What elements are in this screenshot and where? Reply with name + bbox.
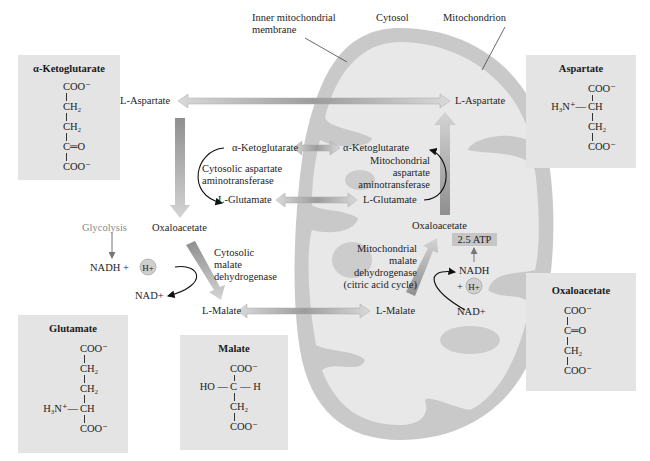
cyto-l-malate: L-Malate [202,305,241,317]
chem-row: CH₂ [80,363,98,375]
matrix-aat-label-3: aminotransferase [330,179,430,191]
chem-row: COO⁻ [230,421,258,433]
structure-box-aspartate: Aspartate COO⁻ H₃N⁺— CH CH₂ COO⁻ [526,55,636,168]
chem-row: C═O [63,141,85,153]
matrix-hplus: H+ [466,281,482,293]
matrix-l-glutamate: L-Glutamate [363,194,417,206]
chem-substituent-left: HO — [180,381,228,393]
glycolysis-label: Glycolysis [82,222,127,234]
cyto-mdh-label-3: dehydrogenase [214,271,277,283]
structure-box-oxaloacetate: Oxaloacetate COO⁻ C═O CH₂ COO⁻ [526,273,636,391]
bond [567,337,568,345]
chem-row: CH [588,101,603,113]
structure-box-glutamate: Glutamate COO⁻ CH₂ CH₂ H₃N⁺— CH COO⁻ [18,315,128,453]
cyto-l-glutamate: L-Glutamate [218,194,272,206]
chem-row: COO⁻ [80,423,108,435]
chem-substituent: H₃N⁺— [526,101,586,113]
matrix-nadh: NADH [459,265,489,277]
cyto-alpha-ketoglutarate: α-Ketoglutarate [232,142,298,154]
cyto-aat-label-2: aminotransferase [202,175,274,187]
cyto-mdh-curve [168,267,197,296]
matrix-mdh-label-1: Mitochondrial [320,243,417,255]
mitochondrion-label: Mitochondrion [443,12,506,24]
chem-row: COO⁻ [588,141,616,153]
matrix-mdh-label-2: malate [320,255,417,267]
cyto-hplus: H+ [140,262,156,274]
chem-row: C [230,381,237,393]
inner-membrane-label: Inner mitochondrial [252,12,336,24]
chem-row: CH₂ [230,401,248,413]
matrix-mdh-label-4: (citric acid cycle) [310,279,417,291]
matrix-aat-label-2: aspartate [340,167,430,179]
cyto-nadh: NADH + [90,262,129,274]
bond [567,317,568,325]
bond [66,153,67,161]
chem-row: COO⁻ [230,363,258,375]
chem-row: CH₂ [564,345,582,357]
bond [234,413,235,421]
chem-row: COO⁻ [564,365,592,377]
structure-title: Aspartate [526,63,636,74]
bond [592,113,593,121]
chem-row: COO⁻ [564,305,592,317]
bond [84,375,85,383]
chem-row: C═O [564,325,586,337]
bond [66,93,67,101]
cytosol-label: Cytosol [376,12,409,24]
bond [84,395,85,403]
cyto-nad-plus: NAD+ [135,290,164,302]
matrix-nad-plus: NAD+ [457,306,486,318]
matrix-plus: + [457,281,463,293]
chem-row: COO⁻ [63,81,91,93]
chem-row: CH₂ [588,121,606,133]
bond [234,393,235,401]
bond [567,357,568,365]
chem-row: CH₂ [80,383,98,395]
matrix-aat-label-1: Mitochondrial [340,155,430,167]
cyto-mdh-label-2: malate [214,259,242,271]
matrix-mdh-label-3: dehydrogenase [320,267,417,279]
chem-substituent-right: — H [240,381,261,393]
matrix-l-aspartate: L-Aspartate [455,95,505,107]
bond [66,113,67,121]
structure-box-malate: Malate COO⁻ HO — C — H CH₂ COO⁻ [180,335,288,450]
cyto-oxaloacetate: Oxaloacetate [152,222,207,234]
matrix-oxaloacetate: Oxaloacetate [412,220,467,232]
matrix-alpha-ketoglutarate: α-Ketoglutarate [343,142,409,154]
structure-title: α-Ketoglutarate [18,63,120,74]
chem-row: CH₂ [63,101,81,113]
bond [84,415,85,423]
structure-box-alpha-ketoglutarate: α-Ketoglutarate COO⁻ CH₂ CH₂ C═O COO⁻ [18,55,120,180]
bond [84,355,85,363]
structure-title: Glutamate [18,323,128,334]
chem-row: CH [80,403,95,415]
cyto-l-aspartate: L-Aspartate [120,95,170,107]
cyto-aat-label-1: Cytosolic aspartate [202,163,282,175]
structure-title: Oxaloacetate [526,285,636,296]
matrix-l-malate: L-Malate [376,305,415,317]
chem-substituent: H₃N⁺— [18,403,78,415]
cyto-asp-to-oaa-arrow [170,118,190,218]
structure-title: Malate [180,343,288,354]
bond [66,133,67,141]
bond [592,133,593,141]
chem-row: COO⁻ [588,83,616,95]
chem-row: COO⁻ [80,343,108,355]
chem-row: COO⁻ [63,161,91,173]
atp-label: 2.5 ATP [452,234,497,246]
inner-membrane-label-2: membrane [252,24,296,36]
chem-row: CH₂ [63,121,81,133]
cyto-mdh-label-1: Cytosolic [214,247,254,259]
